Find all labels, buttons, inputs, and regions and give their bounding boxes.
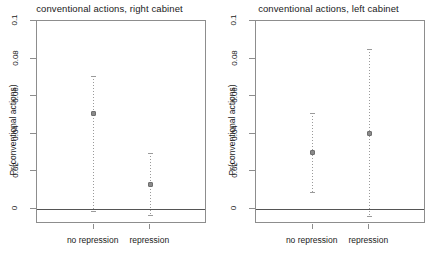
confidence-interval-bar (93, 76, 94, 211)
x-axis-tick (368, 224, 369, 229)
y-axis-tick-label: 0.1 (227, 10, 241, 30)
x-axis-tick (312, 224, 313, 229)
plot-area (255, 20, 425, 223)
ci-upper-cap (367, 49, 372, 50)
y-axis-tick-label: 0.08 (227, 48, 241, 68)
ci-lower-cap (367, 216, 372, 217)
ci-upper-cap (148, 153, 153, 154)
ci-lower-cap (310, 192, 315, 193)
panel-left-cabinet: conventional actions, left cabinet Pr(co… (219, 0, 438, 259)
y-axis-tick-label: 0.06 (227, 85, 241, 105)
ci-lower-cap (91, 211, 96, 212)
zero-reference-line (37, 209, 205, 210)
zero-reference-line (256, 209, 424, 210)
ci-lower-cap (148, 215, 153, 216)
x-axis-tick (149, 224, 150, 229)
panel-right-cabinet: conventional actions, right cabinet Pr(c… (0, 0, 219, 259)
y-axis-tick-label: 0.04 (227, 123, 241, 143)
x-axis-tick-label: repression (109, 235, 189, 245)
ci-upper-cap (91, 76, 96, 77)
y-axis-tick-label: 0.02 (227, 160, 241, 180)
data-point-marker (91, 111, 96, 116)
data-point-marker (148, 182, 153, 187)
y-axis-tick-label: 0 (8, 198, 22, 218)
y-axis-tick-label: 0.06 (8, 85, 22, 105)
plot-area (36, 20, 206, 223)
y-axis-tick-label: 0.02 (8, 160, 22, 180)
panel-title: conventional actions, left cabinet (219, 3, 438, 15)
chart-figure: conventional actions, right cabinet Pr(c… (0, 0, 438, 259)
y-axis-tick-label: 0.1 (8, 10, 22, 30)
y-axis-tick-label: 0 (227, 198, 241, 218)
data-point-marker (367, 131, 372, 136)
x-axis-tick (93, 224, 94, 229)
y-axis-tick-label: 0.08 (8, 48, 22, 68)
x-axis-tick-label: repression (328, 235, 408, 245)
y-axis-tick-label: 0.04 (8, 123, 22, 143)
ci-upper-cap (310, 113, 315, 114)
panel-title: conventional actions, right cabinet (0, 3, 219, 15)
data-point-marker (310, 150, 315, 155)
